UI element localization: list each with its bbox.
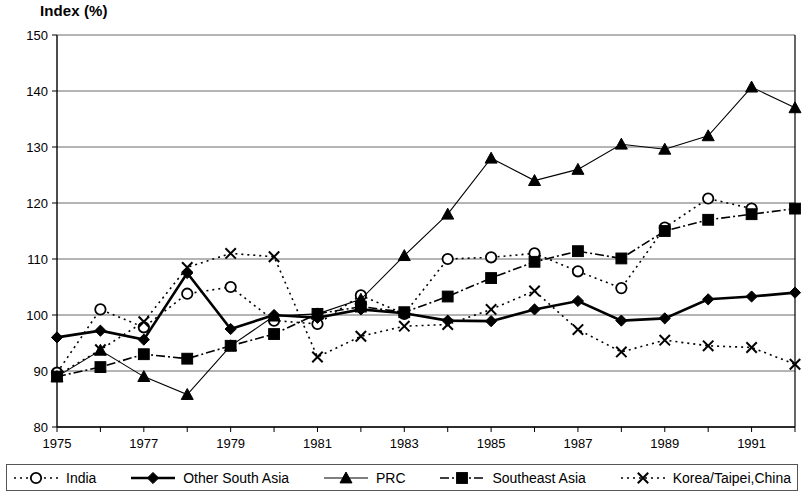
data-point-filled-triangle [138,371,150,382]
legend-label: Other South Asia [183,470,289,486]
data-point-filled-square [182,353,193,364]
series-line [57,87,795,394]
legend-label: PRC [376,470,406,486]
data-point-filled-diamond [703,294,714,305]
y-axis-tick-label: 80 [34,420,48,435]
series-line [57,253,795,375]
x-axis-tick-label: 1991 [737,436,766,451]
y-axis-tick-label: 130 [26,140,48,155]
data-point-filled-square [457,472,468,483]
x-axis-tick-label: 1989 [650,436,679,451]
data-point-filled-square [138,349,149,360]
data-point-cross [225,248,235,258]
series-korea-taipei-china [52,248,800,380]
data-point-filled-square [312,308,323,319]
data-point-open-circle [95,304,105,314]
data-point-cross [660,335,670,345]
legend-marker-open-circle-icon [13,470,59,486]
data-point-open-circle [616,283,626,293]
legend-marker-filled-square-icon [439,470,485,486]
legend-entry-india[interactable]: India [13,470,96,486]
data-point-cross [312,352,322,362]
y-axis-tick-label: 140 [26,84,48,99]
x-axis-tick-label: 1985 [477,436,506,451]
data-point-cross [399,321,409,331]
data-point-open-circle [703,193,713,203]
data-point-open-circle [225,282,235,292]
x-axis-tick-label: 1987 [563,436,592,451]
legend-marker-cross-icon [620,470,666,486]
x-axis-tick-label: 1975 [43,436,72,451]
data-point-open-circle [139,322,149,332]
data-point-filled-square [703,214,714,225]
series-line [57,273,795,340]
data-point-cross [269,252,279,262]
legend-entry-korea-taipei-china[interactable]: Korea/Taipei,China [620,470,791,486]
legend-entry-other-south-asia[interactable]: Other South Asia [130,470,289,486]
data-point-filled-square [573,246,584,257]
line-chart: Index (%) 809010011012013014015019751977… [0,0,806,496]
x-axis-tick-label: 1983 [390,436,419,451]
data-point-cross [356,331,366,341]
chart-legend: IndiaOther South AsiaPRCSoutheast AsiaKo… [6,464,798,491]
data-point-open-circle [486,252,496,262]
legend-entry-prc[interactable]: PRC [323,470,406,486]
data-point-filled-triangle [442,208,454,219]
data-point-filled-square [225,340,236,351]
data-point-filled-triangle [746,81,758,92]
legend-label: India [66,470,96,486]
legend-marker-filled-triangle-icon [323,470,369,486]
legend-marker-filled-diamond-icon [130,470,176,486]
data-point-filled-diamond [486,316,497,327]
data-point-open-circle [31,472,41,482]
series-prc [51,81,801,399]
y-axis-tick-label: 90 [34,364,48,379]
legend-label: Southeast Asia [492,470,585,486]
data-point-filled-diamond [616,315,627,326]
series-southeast-asia [52,203,801,382]
data-point-filled-square [659,226,670,237]
data-point-filled-square [529,256,540,267]
legend-entry-southeast-asia[interactable]: Southeast Asia [439,470,585,486]
series-line [57,199,752,373]
y-axis-tick-label: 120 [26,196,48,211]
plot-area: 8090100110120130140150197519771979198119… [0,0,806,460]
data-point-filled-diamond [659,313,670,324]
data-point-filled-triangle [572,163,584,174]
data-point-filled-triangle [485,152,497,163]
series-india [52,193,757,378]
data-point-filled-diamond [746,291,757,302]
data-point-filled-diamond [789,287,800,298]
y-axis-tick-label: 100 [26,308,48,323]
data-point-filled-diamond [529,304,540,315]
x-axis-tick-label: 1979 [216,436,245,451]
data-point-filled-square [399,307,410,318]
data-point-filled-square [95,362,106,373]
data-point-filled-diamond [572,295,583,306]
data-point-filled-square [486,273,497,284]
data-point-filled-square [616,253,627,264]
y-axis-tick-label: 150 [26,28,48,43]
x-axis-tick-label: 1977 [129,436,158,451]
data-point-filled-diamond [148,472,159,483]
data-point-open-circle [443,254,453,264]
x-axis-tick-label: 1981 [303,436,332,451]
data-point-open-circle [182,289,192,299]
data-point-filled-square [355,301,366,312]
data-point-cross [529,286,539,296]
data-point-filled-triangle [615,138,627,149]
series-other-south-asia [51,267,800,345]
data-point-filled-square [442,291,453,302]
data-point-open-circle [573,266,583,276]
data-point-filled-diamond [95,325,106,336]
data-point-filled-square [746,209,757,220]
data-point-cross [616,347,626,357]
data-point-filled-square [790,203,801,214]
data-point-cross [486,304,496,314]
data-point-filled-triangle [789,102,801,113]
data-point-filled-diamond [51,332,62,343]
y-axis-tick-label: 110 [27,252,48,267]
data-point-filled-square [269,329,280,340]
legend-label: Korea/Taipei,China [673,470,791,486]
data-point-cross [573,324,583,334]
